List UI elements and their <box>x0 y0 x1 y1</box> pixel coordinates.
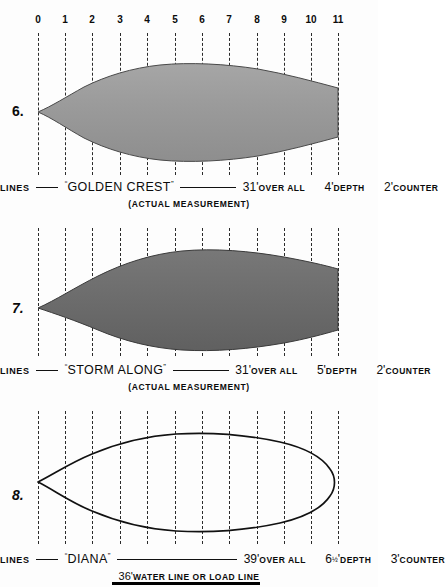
caption-length: 39' <box>244 552 260 566</box>
caption-close-quote: ” <box>163 362 166 371</box>
caption-depth: 5' <box>317 363 326 377</box>
caption-vessel-name: STORM ALONG <box>67 363 163 377</box>
subcaption-diana-waterline: 36'WATER LINE OR LOAD LINE <box>0 570 378 582</box>
caption-rule <box>36 559 58 560</box>
caption-depth-note: DEPTH <box>333 183 364 193</box>
ruler-tick-10: 10 <box>305 14 316 25</box>
caption-length-note: OVER ALL <box>251 366 298 376</box>
caption-length-note: OVER ALL <box>259 183 306 193</box>
hull-svg-diana <box>0 424 378 544</box>
ruler-tick-9: 9 <box>281 14 287 25</box>
caption-length-note: OVER ALL <box>259 555 306 565</box>
caption-lines-label: LINES <box>0 366 30 376</box>
caption-rule <box>36 370 58 371</box>
ruler-tick-8: 8 <box>254 14 260 25</box>
caption-lines-label: LINES <box>0 555 30 565</box>
caption-counter: 2' <box>384 180 393 194</box>
caption-rule <box>36 187 58 188</box>
caption-length: 31' <box>243 180 259 194</box>
hull-plan-golden-crest <box>0 55 378 173</box>
caption-diana: LINES “DIANA” 39'OVER ALL 6½'DEPTH 3'COU… <box>0 551 378 566</box>
caption-rule <box>173 370 229 371</box>
ruler-tick-4: 4 <box>144 14 150 25</box>
caption-close-quote: ” <box>108 551 111 560</box>
hull-svg-storm-along <box>0 238 378 353</box>
caption-counter-note: COUNTER <box>393 183 439 193</box>
ruler-tick-11: 11 <box>333 14 344 25</box>
ruler-tick-2: 2 <box>89 14 95 25</box>
caption-vessel-name: DIANA <box>67 552 107 566</box>
caption-depth: 6 <box>325 552 332 566</box>
waterline-length: 36' <box>119 570 133 582</box>
caption-lines-label: LINES <box>0 183 30 193</box>
caption-vessel-name: GOLDEN CREST <box>67 180 170 194</box>
caption-storm-along: LINES “STORM ALONG” 31'OVER ALL 5'DEPTH … <box>0 362 378 377</box>
hull-outline-path <box>38 250 338 351</box>
subcaption-storm-along: (ACTUAL MEASUREMENT) <box>0 382 378 392</box>
hull-outline-path <box>38 64 338 162</box>
caption-counter-note: COUNTER <box>400 555 445 565</box>
caption-depth-note: DEPTH <box>326 366 357 376</box>
hull-outline-path <box>38 433 335 531</box>
caption-rule <box>180 187 236 188</box>
waterline-note: WATER LINE OR LOAD LINE <box>133 572 260 582</box>
hull-svg-golden-crest <box>0 55 378 173</box>
station-ruler: 0 1 2 3 4 5 6 7 8 9 10 11 <box>0 14 378 36</box>
hull-plan-diana <box>0 424 378 544</box>
subcaption-golden-crest: (ACTUAL MEASUREMENT) <box>0 199 378 209</box>
load-line-bar <box>112 582 260 585</box>
caption-golden-crest: LINES “GOLDEN CREST” 31'OVER ALL 4'DEPTH… <box>0 179 378 194</box>
caption-rule <box>117 559 237 560</box>
caption-length: 31' <box>235 363 251 377</box>
ruler-tick-3: 3 <box>117 14 123 25</box>
caption-counter-note: COUNTER <box>385 366 431 376</box>
ruler-tick-6: 6 <box>199 14 205 25</box>
hull-plan-storm-along <box>0 238 378 353</box>
ruler-tick-1: 1 <box>62 14 68 25</box>
ruler-tick-0: 0 <box>35 14 41 25</box>
caption-close-quote: ” <box>171 179 174 188</box>
ruler-tick-5: 5 <box>172 14 178 25</box>
caption-depth-note: DEPTH <box>340 555 371 565</box>
caption-counter: 3' <box>391 552 400 566</box>
ruler-tick-7: 7 <box>226 14 232 25</box>
